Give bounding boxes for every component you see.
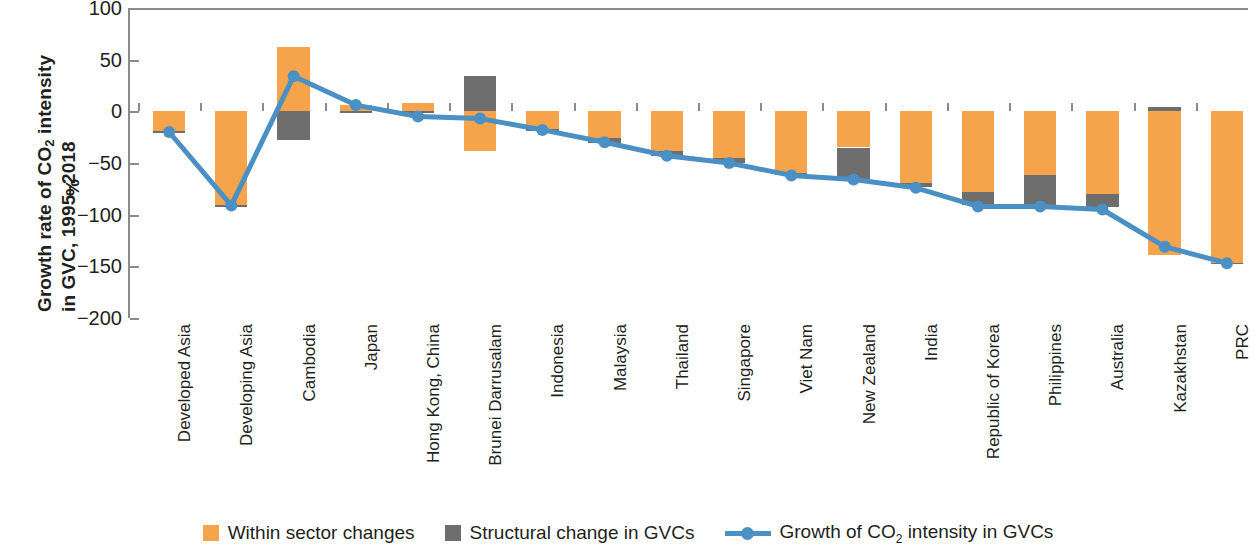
x-axis-category-labels: Developed AsiaDeveloping AsiaCambodiaJap… bbox=[128, 322, 1248, 512]
y-axis-title-subscript: 2 bbox=[42, 139, 57, 146]
x-category-label: New Zealand bbox=[860, 324, 880, 424]
line-data-point bbox=[474, 113, 486, 125]
x-category-label: Philippines bbox=[1046, 324, 1066, 406]
line-data-point bbox=[910, 182, 922, 194]
x-category-label: Cambodia bbox=[300, 324, 320, 402]
x-category-label: Developed Asia bbox=[175, 324, 195, 442]
y-axis-title-line1: Growth rate of CO2 intensity bbox=[34, 55, 57, 312]
legend-label-growth-line: Growth of CO2 intensity in GVCs bbox=[780, 521, 1054, 546]
line-data-point bbox=[163, 126, 175, 138]
x-category-label: Japan bbox=[362, 324, 382, 370]
legend-swatch-gray bbox=[445, 525, 461, 541]
x-category-label: Developing Asia bbox=[237, 324, 257, 446]
line-data-point bbox=[288, 70, 300, 82]
line-series-layer bbox=[128, 8, 1248, 318]
plot-area bbox=[128, 8, 1248, 318]
line-data-point bbox=[1221, 257, 1233, 269]
y-tick-label: 100 bbox=[66, 0, 122, 20]
y-axis-title-line1-text: Growth rate of CO bbox=[34, 147, 55, 312]
y-tick-label: −200 bbox=[66, 307, 122, 330]
legend-swatch-line bbox=[725, 525, 771, 541]
x-category-label: Malaysia bbox=[611, 324, 631, 391]
x-category-label: Indonesia bbox=[548, 324, 568, 398]
y-tick-label: −100 bbox=[66, 203, 122, 226]
line-data-point bbox=[785, 169, 797, 181]
x-category-label: Brunei Darrusalam bbox=[486, 324, 506, 466]
line-data-point bbox=[848, 174, 860, 186]
legend-label-growth-tail: intensity in GVCs bbox=[902, 521, 1053, 542]
y-tick-label: −50 bbox=[66, 152, 122, 175]
line-data-point bbox=[412, 111, 424, 123]
y-axis-tick-labels: 100500−50−100−150−200 bbox=[64, 0, 122, 340]
x-category-label: Thailand bbox=[673, 324, 693, 389]
y-tick-label: 50 bbox=[66, 48, 122, 71]
line-data-point bbox=[972, 200, 984, 212]
line-growth-co2-intensity bbox=[169, 76, 1227, 263]
legend-label-within-sector: Within sector changes bbox=[228, 522, 415, 544]
legend-item-within-sector: Within sector changes bbox=[203, 522, 415, 544]
line-data-point bbox=[536, 124, 548, 136]
line-data-point bbox=[225, 199, 237, 211]
x-category-label: India bbox=[922, 324, 942, 361]
x-category-label: Viet Nam bbox=[797, 324, 817, 394]
x-category-label: Kazakhstan bbox=[1171, 324, 1191, 413]
x-category-label: Republic of Korea bbox=[984, 324, 1004, 459]
y-tick-mark bbox=[130, 318, 139, 320]
chart-figure: Growth rate of CO2 intensity in GVC, 199… bbox=[0, 0, 1256, 556]
line-data-point bbox=[661, 150, 673, 162]
line-data-point bbox=[599, 136, 611, 148]
x-category-label: Australia bbox=[1108, 324, 1128, 390]
legend-item-structural-change: Structural change in GVCs bbox=[445, 522, 695, 544]
line-data-point bbox=[1034, 200, 1046, 212]
y-tick-label: −150 bbox=[66, 255, 122, 278]
line-data-point bbox=[723, 157, 735, 169]
x-category-label: PRC bbox=[1233, 324, 1253, 360]
y-axis-title: Growth rate of CO2 intensity in GVC, 199… bbox=[6, 0, 64, 330]
y-axis-title-line1-tail: intensity bbox=[34, 55, 55, 139]
y-tick-label: 0 bbox=[66, 100, 122, 123]
x-category-label: Singapore bbox=[735, 324, 755, 402]
line-data-point bbox=[1159, 241, 1171, 253]
legend-label-growth-head: Growth of CO bbox=[780, 521, 896, 542]
x-category-label: Hong Kong, China bbox=[424, 324, 444, 463]
chart-legend: Within sector changes Structural change … bbox=[0, 516, 1256, 550]
line-data-point bbox=[350, 99, 362, 111]
line-data-point bbox=[1096, 204, 1108, 216]
legend-label-structural-change: Structural change in GVCs bbox=[470, 522, 695, 544]
legend-item-growth-line: Growth of CO2 intensity in GVCs bbox=[725, 521, 1054, 546]
legend-swatch-orange bbox=[203, 525, 219, 541]
